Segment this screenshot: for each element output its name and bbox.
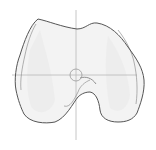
diagram-canvas <box>0 0 156 150</box>
femur-diagram <box>0 0 156 150</box>
